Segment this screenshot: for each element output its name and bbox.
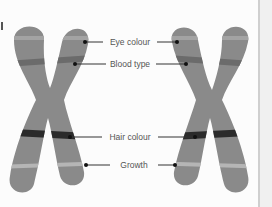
- diagram-canvas: Eye colour Blood type Hair colour Growth: [0, 0, 258, 207]
- left-chromosome: [0, 0, 100, 207]
- right-chromosome: [160, 0, 258, 207]
- label-eye-colour: Eye colour: [110, 37, 150, 47]
- label-growth: Growth: [120, 160, 147, 170]
- chromosome-diagram: [0, 0, 258, 207]
- label-blood-type: Blood type: [110, 59, 150, 69]
- side-panel-edge: [258, 0, 272, 207]
- label-hair-colour: Hair colour: [109, 132, 150, 142]
